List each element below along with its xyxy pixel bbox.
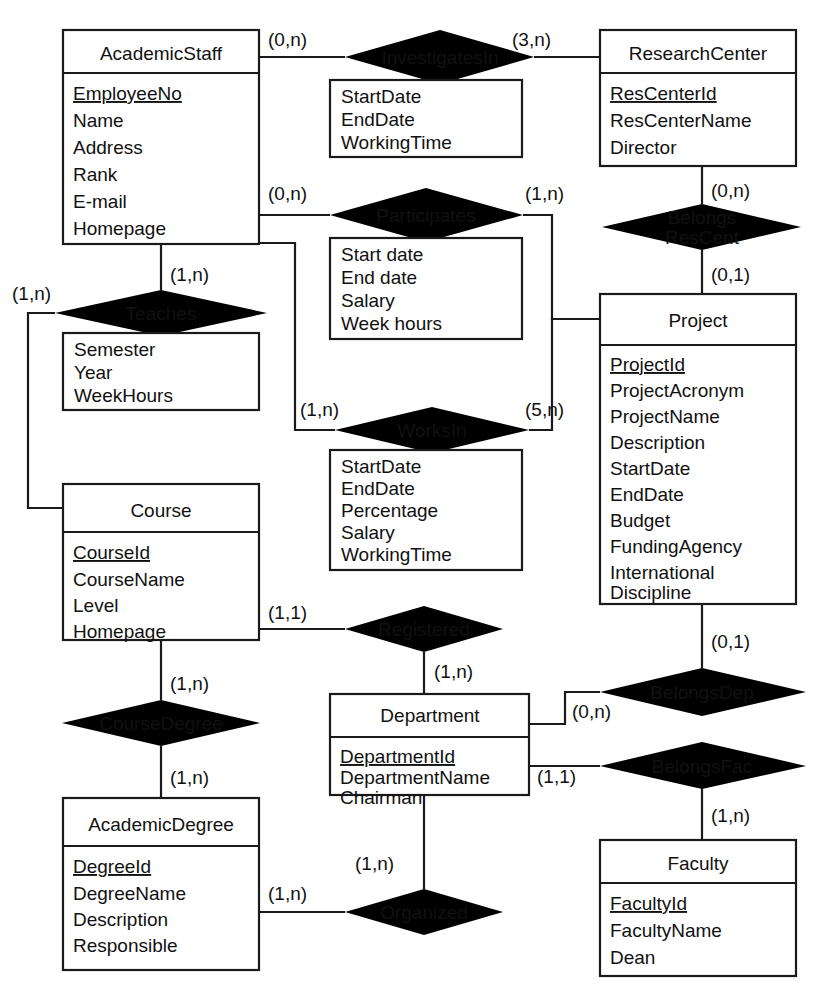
relationship-teaches-attr-2: WeekHours [74, 385, 173, 406]
entity-academicstaff-attr-0: EmployeeNo [73, 83, 182, 104]
cardinality-dept-organized: (1,n) [355, 853, 394, 874]
entity-project-attr-8: International [610, 562, 715, 583]
entity-academicstaff-attr-3: Rank [73, 164, 118, 185]
entity-academicdegree-attr-1: DegreeName [73, 883, 186, 904]
cardinality-dept-belongsdep: (0,n) [572, 701, 611, 722]
relationship-participates-attr-3: Week hours [341, 313, 442, 334]
relationship-investigatesin[interactable]: InvestigatesIn StartDate EndDate Working… [330, 30, 534, 157]
entity-project-attr-3: Description [610, 432, 705, 453]
relationship-worksin-attr-4: WorkingTime [341, 544, 452, 565]
relationship-belongsfac-label: BelongsFac [652, 756, 752, 777]
cardinality-degree-organized: (1,n) [268, 883, 307, 904]
cardinality-course-teaches: (1,n) [12, 283, 51, 304]
relationship-belongsdep-label: BelongsDep [650, 682, 754, 703]
cardinality-course-registered: (1,1) [268, 602, 307, 623]
relationship-coursedegree[interactable]: CourseDegree [62, 700, 260, 746]
entity-project-attr-1: ProjectAcronym [610, 380, 744, 401]
relationship-registered[interactable]: Registered [345, 606, 503, 652]
relationship-participates-attr-1: End date [341, 267, 417, 288]
relationship-teaches-label: Teaches [126, 303, 197, 324]
cardinality-faculty-belongsfac: (1,n) [711, 805, 750, 826]
relationship-teaches-attr-0: Semester [74, 339, 156, 360]
relationship-belongsrescent[interactable]: Belongs ResCent [602, 204, 801, 250]
entity-course-attr-2: Level [73, 595, 118, 616]
cardinality-project-belongsdep: (0,1) [711, 631, 750, 652]
entity-academicstaff-attr-4: E-mail [73, 191, 127, 212]
relationship-organized[interactable]: Organized [345, 889, 503, 935]
entity-project-attr-4: StartDate [610, 458, 690, 479]
relationship-investigatesin-label: InvestigatesIn [381, 47, 498, 68]
cardinality-course-degree: (1,n) [170, 673, 209, 694]
entity-project-attr-0: ProjectId [610, 354, 685, 375]
entity-project-title: Project [668, 310, 728, 331]
entity-researchcenter-attr-0: ResCenterId [610, 83, 717, 104]
entity-faculty-attr-2: Dean [610, 947, 655, 968]
cardinality-project-worksin: (5,n) [525, 399, 564, 420]
entity-project[interactable]: Project ProjectId ProjectAcronym Project… [600, 294, 796, 604]
er-diagram-svg: AcademicStaff EmployeeNo Name Address Ra… [0, 0, 818, 998]
entity-department-attr-1: DepartmentName [340, 767, 490, 788]
relationship-worksin-attr-1: EndDate [341, 478, 415, 499]
cardinality-staff-participates: (0,n) [268, 183, 307, 204]
relationship-worksin-attr-2: Percentage [341, 500, 438, 521]
entity-faculty[interactable]: Faculty FacultyId FacultyName Dean [600, 840, 796, 976]
entity-researchcenter[interactable]: ResearchCenter ResCenterId ResCenterName… [600, 30, 796, 166]
relationship-belongsfac[interactable]: BelongsFac [600, 742, 806, 789]
relationship-belongsrescent-label-line1: Belongs [668, 207, 737, 228]
entity-course-attr-3: Homepage [73, 621, 166, 642]
entity-department-attr-0: DepartmentId [340, 746, 455, 767]
relationship-participates[interactable]: Participates Start date End date Salary … [330, 188, 523, 339]
relationship-worksin-label: WorksIn [397, 420, 466, 441]
entity-academicstaff[interactable]: AcademicStaff EmployeeNo Name Address Ra… [63, 30, 259, 244]
entity-course[interactable]: Course CourseId CourseName Level Homepag… [63, 484, 259, 642]
relationship-teaches-attr-1: Year [74, 362, 113, 383]
entity-academicstaff-attr-5: Homepage [73, 218, 166, 239]
relationship-coursedegree-label: CourseDegree [99, 713, 223, 734]
entity-faculty-title: Faculty [667, 853, 729, 874]
relationship-participates-attr-0: Start date [341, 244, 423, 265]
entity-course-title: Course [130, 500, 191, 521]
cardinality-staff-investigates: (0,n) [268, 29, 307, 50]
entity-department-attr-2: Chairman [340, 787, 422, 808]
relationship-worksin-attr-3: Salary [341, 522, 395, 543]
relationship-belongsrescent-label-line2: ResCent [665, 227, 740, 248]
relationship-worksin-attr-0: StartDate [341, 456, 421, 477]
entity-researchcenter-title: ResearchCenter [629, 43, 768, 64]
entity-academicdegree-attr-3: Responsible [73, 935, 178, 956]
entity-academicdegree-title: AcademicDegree [88, 814, 234, 835]
entity-course-attr-0: CourseId [73, 542, 150, 563]
relationship-belongsdep[interactable]: BelongsDep [600, 668, 806, 716]
entity-project-attr-6: Budget [610, 510, 671, 531]
entity-project-attr-9: Discipline [610, 582, 691, 603]
relationship-worksin[interactable]: WorksIn StartDate EndDate Percentage Sal… [330, 407, 529, 570]
entity-academicstaff-attr-2: Address [73, 137, 143, 158]
relationship-registered-label: Registered [378, 619, 470, 640]
entity-department[interactable]: Department DepartmentId DepartmentName C… [330, 694, 529, 808]
cardinality-staff-teaches: (1,n) [170, 264, 209, 285]
relationship-participates-attr-2: Salary [341, 290, 395, 311]
entity-academicstaff-attr-1: Name [73, 110, 124, 131]
relationship-investigatesin-attr-1: EndDate [341, 109, 415, 130]
line-participates-project [523, 215, 600, 319]
cardinality-project-participates: (1,n) [525, 183, 564, 204]
relationship-teaches[interactable]: Teaches Semester Year WeekHours [55, 290, 267, 410]
cardinality-staff-worksin: (1,n) [300, 399, 339, 420]
relationship-investigatesin-attr-2: WorkingTime [341, 132, 452, 153]
entity-project-attr-5: EndDate [610, 484, 684, 505]
cardinality-dept-registered: (1,n) [434, 661, 473, 682]
relationship-investigatesin-attr-0: StartDate [341, 86, 421, 107]
entity-department-title: Department [380, 705, 480, 726]
entity-project-attr-2: ProjectName [610, 406, 720, 427]
entity-researchcenter-attr-2: Director [610, 137, 677, 158]
line-teaches-course [28, 313, 63, 508]
entity-project-attr-7: FundingAgency [610, 536, 743, 557]
entity-faculty-attr-1: FacultyName [610, 920, 722, 941]
cardinality-dept-belongsfac: (1,1) [537, 766, 576, 787]
entity-academicstaff-title: AcademicStaff [100, 43, 223, 64]
cardinality-degree-course: (1,n) [170, 767, 209, 788]
relationship-organized-label: Organized [380, 902, 468, 923]
entity-academicdegree[interactable]: AcademicDegree DegreeId DegreeName Descr… [63, 798, 259, 970]
cardinality-center-investigates: (3,n) [512, 29, 551, 50]
entity-faculty-attr-0: FacultyId [610, 893, 687, 914]
entity-course-attr-1: CourseName [73, 569, 185, 590]
